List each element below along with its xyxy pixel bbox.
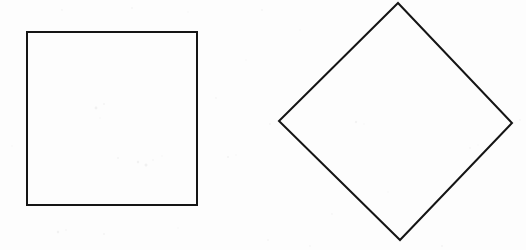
diamond-shape: [279, 3, 512, 240]
shape-layer: [0, 0, 526, 250]
drawing-canvas: [0, 0, 526, 250]
square-shape: [27, 32, 197, 205]
